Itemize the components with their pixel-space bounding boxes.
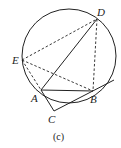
tangent-line-CB <box>54 80 114 111</box>
label-E: E <box>11 54 19 66</box>
segment-AD <box>41 19 97 90</box>
label-B: B <box>90 93 97 105</box>
segment-AB <box>41 90 93 91</box>
figure-caption: (c) <box>53 131 64 143</box>
geometry-figure: D E A B C (c) <box>0 0 121 148</box>
label-D: D <box>96 6 105 18</box>
segment-AC <box>41 90 54 111</box>
segment-DB <box>93 19 97 91</box>
circle <box>22 9 116 103</box>
label-A: A <box>30 92 38 104</box>
label-C: C <box>48 113 56 125</box>
